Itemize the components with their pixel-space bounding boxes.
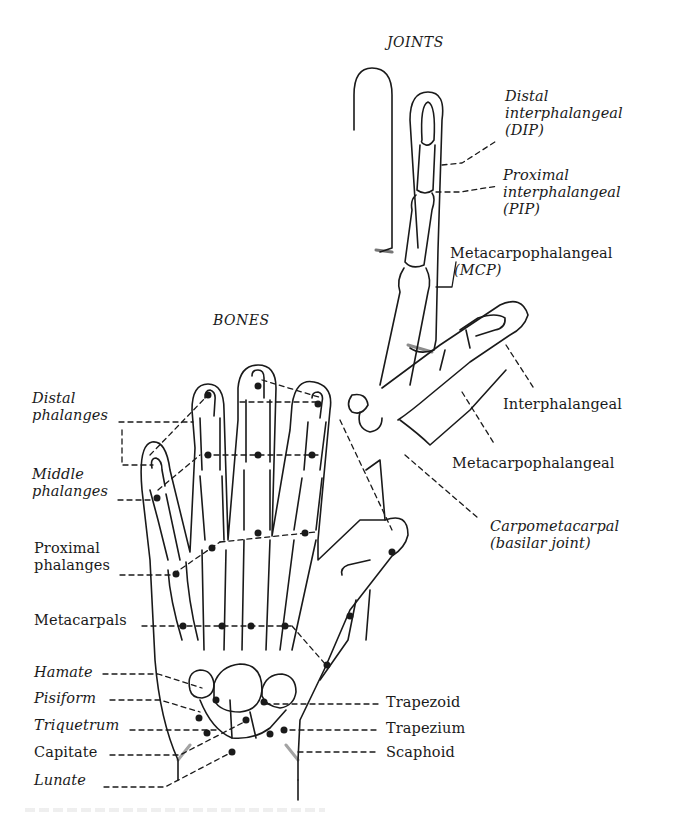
label-line: Distal xyxy=(505,88,623,105)
label-triquetrum: Triquetrum xyxy=(34,717,119,734)
label-proximal-phalanges: Proximal phalanges xyxy=(34,540,110,574)
label-line: phalanges xyxy=(34,557,110,574)
label-line: Pisiform xyxy=(34,690,96,707)
label-line: phalanges xyxy=(32,483,108,500)
label-line: Trapezium xyxy=(386,720,465,737)
label-line: interphalangeal xyxy=(503,184,621,201)
label-line: Metacarpophalangeal xyxy=(452,455,615,472)
label-carpometacarpal: Carpometacarpal (basilar joint) xyxy=(490,518,619,552)
bones-heading: BONES xyxy=(213,312,270,329)
label-pip: Proximal interphalangeal (PIP) xyxy=(503,167,621,218)
label-dip: Distal interphalangeal (DIP) xyxy=(505,88,623,139)
label-line: Capitate xyxy=(34,744,97,761)
label-thumb-interphalangeal: Interphalangeal xyxy=(503,396,622,413)
label-line: Middle xyxy=(32,466,108,483)
joints-heading: JOINTS xyxy=(387,34,444,51)
label-line: Hamate xyxy=(34,664,93,681)
label-metacarpals: Metacarpals xyxy=(34,612,127,629)
label-line: Proximal xyxy=(503,167,621,184)
label-line: Trapezoid xyxy=(386,694,460,711)
label-line: Metacarpals xyxy=(34,612,127,629)
label-line: Carpometacarpal xyxy=(490,518,619,535)
label-lunate: Lunate xyxy=(34,772,86,789)
label-line: Triquetrum xyxy=(34,717,119,734)
label-line: Scaphoid xyxy=(386,744,455,761)
label-line: phalanges xyxy=(32,407,108,424)
label-line: (DIP) xyxy=(505,122,623,139)
label-line: Distal xyxy=(32,390,108,407)
label-trapezium: Trapezium xyxy=(386,720,465,737)
label-middle-phalanges: Middle phalanges xyxy=(32,466,108,500)
label-pisiform: Pisiform xyxy=(34,690,96,707)
label-thumb-metacarpophalangeal: Metacarpophalangeal xyxy=(452,455,615,472)
label-line: Metacarpophalangeal xyxy=(450,245,613,262)
label-trapezoid: Trapezoid xyxy=(386,694,460,711)
label-distal-phalanges: Distal phalanges xyxy=(32,390,108,424)
clipped-caption-strip xyxy=(25,808,325,812)
label-hamate: Hamate xyxy=(34,664,93,681)
joints-finger-drawing xyxy=(349,68,529,520)
label-line: Proximal xyxy=(34,540,110,557)
bones-hand-drawing xyxy=(141,365,408,800)
label-line: (PIP) xyxy=(503,201,621,218)
label-line: (MCP) xyxy=(454,262,613,279)
label-mcp: Metacarpophalangeal (MCP) xyxy=(450,245,613,279)
label-scaphoid: Scaphoid xyxy=(386,744,455,761)
label-line: (basilar joint) xyxy=(490,535,619,552)
label-line: Lunate xyxy=(34,772,86,789)
label-capitate: Capitate xyxy=(34,744,97,761)
label-line: Interphalangeal xyxy=(503,396,622,413)
label-line: interphalangeal xyxy=(505,105,623,122)
